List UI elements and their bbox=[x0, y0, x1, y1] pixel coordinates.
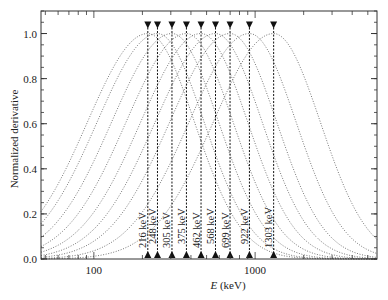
peak-label-248: 248 keV bbox=[147, 208, 158, 244]
plot-canvas: 216 keV248 keV305 keV375 keV462 keV568 k… bbox=[0, 0, 388, 300]
y-tick-label: 0.2 bbox=[23, 208, 37, 220]
chart-container: 216 keV248 keV305 keV375 keV462 keV568 k… bbox=[0, 0, 388, 300]
up-triangle-icon bbox=[270, 251, 277, 258]
peak-label-462: 462 keV bbox=[191, 212, 202, 248]
up-triangle-icon bbox=[212, 251, 219, 258]
y-tick-label: 0.4 bbox=[23, 163, 37, 175]
down-triangle-icon bbox=[183, 22, 190, 29]
peak-label-922: 922 keV bbox=[239, 208, 250, 244]
y-tick-label: 1.0 bbox=[23, 28, 37, 40]
up-triangle-icon bbox=[144, 251, 151, 258]
peak-label-568: 568 keV bbox=[205, 208, 216, 244]
y-axis-title: Normalized derivative bbox=[8, 90, 20, 189]
y-tick-label: 0.6 bbox=[23, 118, 37, 130]
y-tick-label: 0.8 bbox=[23, 73, 37, 85]
up-triangle-icon bbox=[198, 251, 205, 258]
down-triangle-icon bbox=[212, 22, 219, 29]
peak-label-699: 699 keV bbox=[220, 212, 231, 248]
peak-label-305: 305 keV bbox=[161, 212, 172, 248]
peak-label-375: 375 keV bbox=[176, 208, 187, 244]
x-tick-label: 100 bbox=[86, 264, 103, 276]
down-triangle-icon bbox=[144, 22, 151, 29]
down-triangle-icon bbox=[246, 22, 253, 29]
up-triangle-icon bbox=[246, 251, 253, 258]
down-triangle-icon bbox=[270, 22, 277, 29]
peak-label-1303: 1303 keV bbox=[263, 206, 274, 248]
up-triangle-icon bbox=[183, 251, 190, 258]
down-triangle-icon bbox=[227, 22, 234, 29]
down-triangle-icon bbox=[154, 22, 161, 29]
x-axis-title: E (keV) bbox=[209, 279, 245, 292]
up-triangle-icon bbox=[168, 251, 175, 258]
x-tick-label: 1000 bbox=[244, 264, 267, 276]
down-triangle-icon bbox=[168, 22, 175, 29]
up-triangle-icon bbox=[154, 251, 161, 258]
x-axis-title-unit: (keV) bbox=[217, 279, 246, 292]
y-tick-label: 0.0 bbox=[23, 253, 37, 265]
down-triangle-icon bbox=[198, 22, 205, 29]
